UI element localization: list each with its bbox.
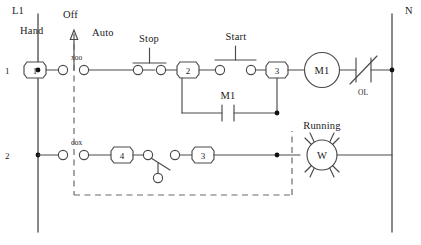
seal-in-contact-m1[interactable] (222, 105, 234, 121)
node-3-rung2-label: 3 (201, 151, 206, 161)
node-2-label: 2 (186, 66, 191, 76)
start-pushbutton[interactable] (215, 46, 256, 75)
motor-coil-label: M1 (315, 65, 330, 76)
overload-label: OL (358, 88, 368, 97)
node-3-rung2: 3 (192, 147, 214, 163)
l1-rung1-junction (36, 68, 41, 73)
selector-auto-label: Auto (92, 27, 114, 38)
selector-off-label: Off (63, 9, 78, 20)
node-3-rung1: 3 (266, 62, 288, 78)
rung-number-2: 2 (5, 151, 10, 161)
start-pushbutton-label: Start (226, 31, 247, 42)
running-indicator-lamp[interactable]: W (305, 133, 339, 177)
selector-contact-terminal-left[interactable] (58, 65, 67, 74)
lamp-feed-junction (275, 153, 280, 158)
ladder-diagram-canvas: L1 N 1 2 1 Hand Auto Off xoo (0, 0, 421, 245)
node-4: 4 (111, 147, 133, 163)
running-lamp-glyph: W (317, 150, 327, 161)
stop-pushbutton-label: Stop (139, 33, 159, 44)
running-lamp-label: Running (303, 120, 341, 131)
rung-number-1: 1 (5, 66, 10, 76)
selector-contact-1-code: xoo (71, 53, 82, 62)
node-3-label: 3 (275, 66, 280, 76)
left-rail-label: L1 (12, 5, 24, 16)
selector2-terminal-right[interactable] (79, 150, 88, 159)
node-4-label: 4 (120, 151, 125, 161)
node-1: 1 (24, 62, 46, 78)
motor-starter-coil-m1[interactable]: M1 (305, 53, 340, 88)
selector-contact-2-code: oox (71, 138, 82, 147)
n-rung1-junction (390, 68, 395, 73)
node-2: 2 (177, 62, 199, 78)
seal-in-junction (275, 111, 280, 116)
right-rail-label: N (405, 5, 413, 16)
selector-contact-terminal-right[interactable] (79, 65, 88, 74)
selector2-terminal-left[interactable] (58, 150, 67, 159)
auto-selector-contact[interactable] (143, 150, 179, 182)
selector-hand-label: Hand (20, 25, 44, 36)
seal-in-contact-label: M1 (221, 90, 236, 101)
ladder-diagram: L1 N 1 2 1 Hand Auto Off xoo (0, 0, 421, 245)
stop-pushbutton[interactable] (133, 48, 166, 75)
